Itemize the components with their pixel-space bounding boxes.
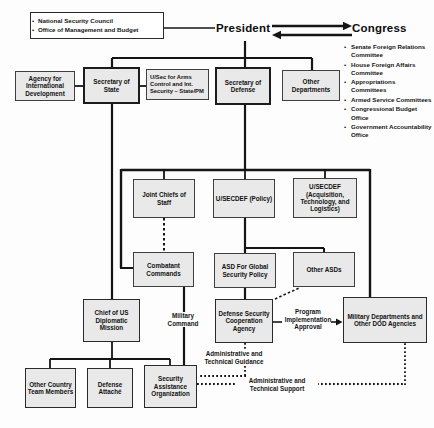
box-defense-attache: Defense Attaché <box>87 368 133 408</box>
congress-committee-list: Senate Foreign Relations Committee House… <box>344 43 432 141</box>
congress-item: House Foreign Affairs Committee <box>344 61 432 77</box>
box-defense-security-cooperation-agency: Defense Security Cooperation Agency <box>215 299 273 343</box>
arrow-left-head <box>272 31 281 39</box>
box-joint-chiefs-of-staff: Joint Chiefs of Staff <box>133 179 195 218</box>
congress-item: Armed Service Committees <box>344 96 432 104</box>
box-chief-us-diplomatic-mission: Chief of US Diplomatic Mission <box>83 299 140 342</box>
box-usecdef-atl: U/SECDEF (Acquisition, Technology, and L… <box>293 178 357 218</box>
box-secretary-of-defense: Secretary of Defense <box>215 67 271 105</box>
box-other-country-team-members: Other Country Team Members <box>25 368 76 408</box>
congress-item: Congressional Budget Office <box>344 105 432 121</box>
box-usec-arms-control: U/Sec for Arms Control and Int. Security… <box>146 69 209 100</box>
president-title: President <box>216 22 270 34</box>
arrow-right-head <box>343 22 352 30</box>
box-asd-global-security-policy: ASD For Global Security Policy <box>214 253 276 288</box>
box-usecdef-policy: U/SECDEF (Policy) <box>213 179 275 218</box>
nsc-omb-box: National Security Council Office of Mana… <box>30 12 164 39</box>
org-chart: National Security Council Office of Mana… <box>0 0 434 428</box>
box-security-assistance-organization: Security Assistance Organization <box>144 365 197 408</box>
congress-item: Senate Foreign Relations Committee <box>344 43 432 59</box>
congress-title: Congress <box>352 22 407 34</box>
nsc-item: National Security Council <box>32 17 138 25</box>
box-secretary-of-state: Secretary of State <box>83 67 140 104</box>
label-program-implementation-approval: Program Implementation Approval <box>277 308 339 331</box>
nsc-omb-list: National Security Council Office of Mana… <box>32 17 138 33</box>
label-administrative-technical-guidance: Administrative and Technical Guidance <box>200 350 268 365</box>
box-other-asds: Other ASDs <box>293 252 355 287</box>
congress-item: Appropriations Committees <box>344 78 432 94</box>
congress-item: Government Accountability Office <box>344 123 432 139</box>
label-administrative-technical-support: Administrative and Technical Support <box>236 377 318 392</box>
box-other-departments: Other Departments <box>282 70 340 101</box>
omb-item: Office of Management and Budget <box>32 26 138 34</box>
box-agency-international-development: Agency for International Development <box>15 71 75 101</box>
box-military-departments-dod-agencies: Military Departments and Other DOD Agenc… <box>343 297 427 343</box>
box-combatant-commands: Combatant Commands <box>133 252 194 287</box>
label-military-command: Military Command <box>160 312 206 327</box>
